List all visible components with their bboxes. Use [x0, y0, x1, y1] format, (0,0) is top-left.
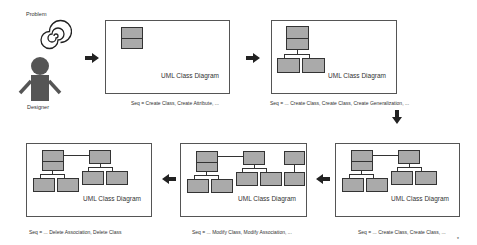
arrow-down-icon	[392, 110, 402, 124]
frame-caption-2: Seq = ... Create Class, Create Class, Cr…	[270, 100, 409, 106]
uml-class	[284, 172, 305, 186]
diagram-frame-3: UML Class Diagram	[335, 143, 460, 217]
problem-label: Problem	[26, 11, 46, 17]
arrow-right-icon	[246, 53, 260, 63]
uml-class	[302, 58, 325, 73]
footer-mark: *	[457, 236, 459, 242]
uml-class	[243, 151, 265, 165]
uml-class	[277, 58, 300, 73]
frame-title: UML Class Diagram	[161, 72, 219, 79]
arrow-left-icon	[162, 174, 176, 184]
uml-class	[415, 171, 437, 185]
uml-class	[391, 171, 413, 185]
uml-class	[342, 178, 364, 192]
diagram-frame-4: UML Class Diagram	[180, 143, 307, 217]
uml-class	[211, 179, 233, 193]
designer-label: Designer	[27, 104, 49, 110]
uml-class	[89, 150, 111, 164]
uml-class	[351, 150, 373, 171]
uml-class	[366, 178, 388, 192]
uml-class	[33, 178, 55, 192]
uml-class	[121, 27, 143, 49]
frame-title: UML Class Diagram	[83, 195, 141, 202]
frame-title: UML Class Diagram	[328, 72, 386, 79]
problem-spiral-icon	[36, 18, 72, 54]
uml-class	[286, 26, 309, 50]
frame-title: UML Class Diagram	[391, 195, 449, 202]
uml-class	[106, 171, 128, 185]
uml-class	[187, 179, 209, 193]
diagram-frame-1: UML Class Diagram	[105, 20, 230, 94]
uml-class	[260, 172, 282, 186]
frame-title: UML Class Diagram	[238, 195, 296, 202]
uml-class	[57, 178, 79, 192]
uml-class	[236, 172, 258, 186]
frame-caption-3: Seq = ... Create Class, Create Class, ..…	[358, 229, 446, 235]
arrow-left-icon	[316, 174, 330, 184]
frame-caption-1: Seq = Create Class, Create Attribute, ..…	[131, 100, 219, 106]
diagram-frame-5: UML Class Diagram	[26, 143, 152, 217]
uml-class	[42, 150, 64, 171]
diagram-frame-2: UML Class Diagram	[271, 20, 397, 94]
arrow-right-icon	[85, 53, 99, 63]
frame-caption-5: Seq = ... Delete Association, Delete Cla…	[29, 229, 121, 235]
designer-icon	[16, 57, 64, 103]
uml-class	[82, 171, 104, 185]
frame-caption-4: Seq = ... Modify Class, Modify Associati…	[192, 229, 292, 235]
uml-class	[284, 151, 305, 165]
uml-class	[196, 151, 218, 172]
uml-class	[398, 150, 420, 164]
